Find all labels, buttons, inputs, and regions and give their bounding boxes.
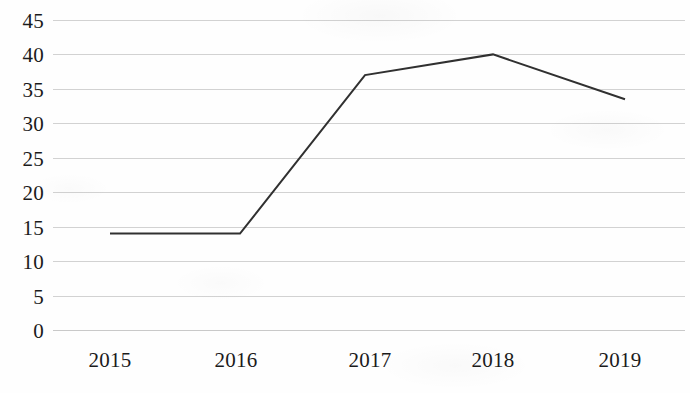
data-series-line: [0, 0, 690, 393]
plot-area: 45 40 35 30 25 20 15 10 5 0 2015 2016 20…: [0, 0, 690, 393]
series-polyline: [110, 54, 625, 233]
line-chart: 45 40 35 30 25 20 15 10 5 0 2015 2016 20…: [0, 0, 690, 393]
